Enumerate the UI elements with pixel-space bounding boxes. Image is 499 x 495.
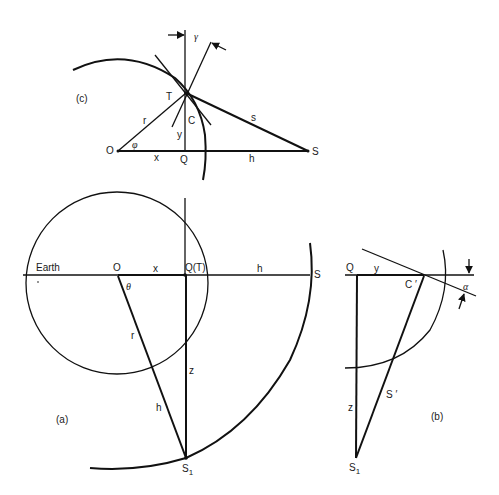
label-q-b: Q [346,262,354,273]
label-s-prime: S ′ [386,389,397,400]
label-qt: Q(T) [185,262,206,273]
point-s1-dot-a [184,456,188,460]
label-x-c: x [154,152,159,163]
label-phi: φ [132,139,138,150]
label-s-a: S [314,269,321,280]
segment-r-c [118,93,186,151]
figure-a: Earth O x Q(T) h S θ r z h (a) S1 [23,192,321,477]
earth-marker-dot [37,281,39,283]
label-z-a: z [189,365,194,376]
label-t: T [166,91,172,102]
point-s-dot [307,150,310,153]
figure-b: Q y C ′ α S ′ z (b) S1 [345,249,476,476]
panel-label-c: (c) [76,93,88,104]
panel-label-b: (b) [431,411,443,422]
label-gamma: γ [194,31,199,42]
label-q-c: Q [180,154,188,165]
label-theta: θ [126,281,131,292]
segment-r-h-a [118,276,186,458]
gamma-arrow-right-icon [212,43,226,50]
label-h-a-top: h [257,263,263,274]
diagram-canvas: (c) T O Q S r x h s C y φ γ Earth O x Q(… [0,0,499,495]
tangent-line-c [155,55,211,125]
label-earth: Earth [36,262,60,273]
segment-z-b [356,275,357,458]
figure-c: (c) T O Q S r x h s C y φ γ [73,30,319,180]
earth-circle [26,192,208,374]
label-h-a-diag: h [156,402,162,413]
label-x-a: x [153,263,158,274]
label-s1-b: S1 [349,462,361,476]
label-s1-a: S1 [182,463,194,477]
label-r-a: r [131,330,135,341]
label-z-b: z [348,402,353,413]
alpha-arrow-bottom-icon [459,294,464,309]
label-s-c: S [312,146,319,157]
orbit-arc-a [90,243,312,469]
label-c: C [188,115,195,126]
label-c-prime: C ′ [405,279,417,290]
panel-label-a: (a) [56,414,68,425]
point-o-dot [117,150,120,153]
label-s-segment: s [251,112,256,123]
point-q-dot-a [183,273,187,277]
label-o-c: O [106,145,114,156]
label-y-c: y [177,129,182,140]
label-o-a: O [113,262,121,273]
segment-s [186,93,308,151]
label-h-c: h [249,153,255,164]
label-y-b: y [374,263,379,274]
point-t-dot [184,91,188,95]
label-alpha: α [463,281,469,292]
label-r-c: r [143,115,147,126]
